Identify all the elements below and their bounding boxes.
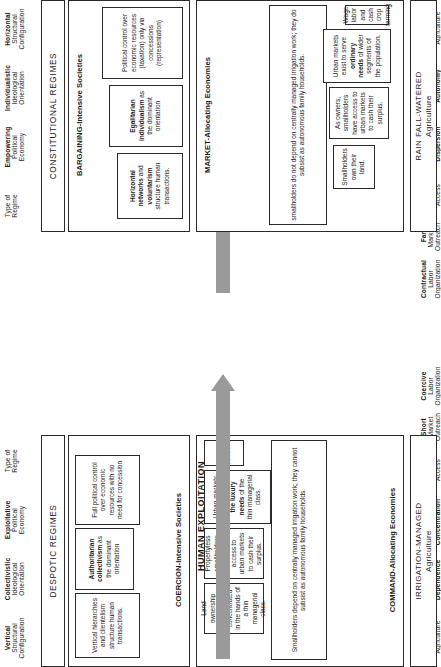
left-cell-2: Propertyless smallholders have no access… <box>204 528 264 579</box>
left-agriculture-bar: IRRIGATION-MANAGED Agriculture <box>410 435 437 667</box>
left-cell-3-text: Urban markets exist to serve the luxury … <box>212 474 263 520</box>
right-cell-3: Urban markets exist to serve ordinary ne… <box>323 29 391 83</box>
right-economy-title: MARKET-Allocating Economies <box>203 0 212 231</box>
left-society-group: COERCION-Intensive Societies Full politi… <box>68 435 190 667</box>
rail-left-5: Coercive Labor Organization <box>407 364 441 408</box>
left-cell-7: Full political control over economic res… <box>75 455 140 525</box>
left-regime-header-label: DESPOTIC REGIMES <box>49 504 58 597</box>
left-column-despotic: Type of Surplus Agriculture Subsistence … <box>0 367 441 667</box>
right-cell-5-emphasis-b: voluntarism <box>146 168 153 205</box>
rail-left-8: Exploitative Political Economy <box>4 491 38 549</box>
diagram-rotation-host: Type of Surplus Agriculture Subsistence … <box>0 0 441 667</box>
rail-right-5: Contractual Labor Organization <box>407 258 441 300</box>
right-cell-2: As owners, smallholders have access to u… <box>329 87 389 139</box>
left-cell-2-text: Propertyless smallholders have no access… <box>204 532 263 575</box>
rail-line2: Structural <box>11 14 18 44</box>
right-cell-4: Wage labor and cash crop farming <box>345 5 389 25</box>
right-cell-0: smallholders do not depend on centrally … <box>269 5 327 225</box>
right-column-constitutional: Type of Surplus Agriculture Subsistence … <box>0 0 441 300</box>
right-regime-header-label: CONSTITUTIONAL REGIMES <box>49 53 58 179</box>
left-cell-5: Vertical hierarchies and clientelism str… <box>75 593 140 658</box>
rail-line1: Short <box>420 418 427 436</box>
right-cell-3-pre: Urban markets exist to serve <box>332 35 347 78</box>
rail-line1: Horizontal <box>4 12 11 46</box>
right-agriculture-line2: Agriculture <box>424 95 434 137</box>
left-regime-header: DESPOTIC REGIMES <box>41 435 65 667</box>
rail-line1: Coercive <box>420 372 427 401</box>
rail-line2: Political <box>11 135 18 159</box>
left-society-title: COERCION-Intensive Societies <box>174 434 183 666</box>
right-cell-5: Horizontal networks and voluntarism stru… <box>117 153 183 219</box>
right-cell-4-text: Wage labor and cash crop farming <box>342 4 393 26</box>
right-cell-0-text: smallholders do not depend on centrally … <box>290 9 307 221</box>
rail-line1: Far <box>420 232 427 243</box>
left-cell-6-emphasis: Authoritarian collectivism <box>88 539 103 582</box>
right-cell-1-text: Smallholders own their land. <box>341 148 366 186</box>
left-cell-7-text: Full political control over economic res… <box>91 459 125 521</box>
rail-right-7: Individualistic Ideological Orientation <box>4 59 38 117</box>
left-economy-title: COMMAND-Allocating Economies <box>388 434 397 666</box>
comparison-diagram: Type of Surplus Agriculture Subsistence … <box>0 0 441 667</box>
right-cell-5-mid: and <box>137 165 144 178</box>
left-economy-group: COMMAND-Allocating Economies Slavery, se… <box>196 435 404 667</box>
right-cell-6-text: Egalitarian individualism as the dominan… <box>129 89 163 143</box>
left-cell-1-text: Land ownership remains concentrated in t… <box>200 587 268 630</box>
right-society-title: BARGAINING-Intensive Societies <box>75 0 84 231</box>
rail-line3: Configuration <box>18 618 25 659</box>
rail-line1: Type of <box>4 450 11 473</box>
rail-right-6: Horizontal Structural Configuration <box>4 0 38 58</box>
right-cell-7: Political control over economic resource… <box>102 7 183 79</box>
right-cell-1: Smallholders own their land. <box>333 145 375 189</box>
left-cell-0-text: Smallholders depend on centrally managed… <box>291 444 308 656</box>
rail-line1: Individualistic <box>4 65 11 111</box>
rail-line3: Economy <box>18 506 25 534</box>
left-agriculture-line1: IRRIGATION-MANAGED <box>414 502 424 599</box>
rail-line2: Regime <box>11 449 18 473</box>
right-agriculture-line1: RAIN FALL-WATERED <box>414 71 424 160</box>
right-cell-3-text: Urban markets exist to serve ordinary ne… <box>332 33 383 79</box>
rail-line1: Type of <box>4 195 11 218</box>
left-cell-3-pre: Urban markets exist to serve <box>212 476 227 519</box>
rail-line2: Labor <box>427 270 434 288</box>
rail-line3: Configuration <box>18 9 25 50</box>
left-cell-4: Slavery, serfdom <box>204 440 244 466</box>
right-society-group: BARGAINING-Intensive Societies Horizonta… <box>68 0 190 232</box>
right-cell-7-text: Political control over economic resource… <box>121 11 163 75</box>
rail-line1: Vertical <box>4 626 11 651</box>
rail-line2: Regime <box>11 194 18 218</box>
right-regime-header: CONSTITUTIONAL REGIMES <box>41 0 65 232</box>
rail-line2: Structural <box>11 623 18 653</box>
left-cell-6-text: Authoritarian collectivism as the domina… <box>88 532 122 586</box>
rail-line1: Contractual <box>420 260 427 298</box>
right-cell-5-text: Horizontal networks and voluntarism stru… <box>129 157 171 215</box>
left-cell-1: Land ownership remains concentrated in t… <box>204 583 264 634</box>
rail-right-9: Type of Regime <box>4 180 38 232</box>
rail-line2: Ideological <box>11 72 18 105</box>
rail-left-9: Type of Regime <box>4 435 38 487</box>
left-cell-3: Urban markets exist to serve the luxury … <box>204 470 271 524</box>
rail-line2: Labor <box>427 377 434 395</box>
right-cell-6-emphasis: Egalitarian individualism <box>129 99 144 141</box>
rail-line2: Ideological <box>11 563 18 596</box>
rail-right-8: Empowering Political Economy <box>4 118 38 176</box>
rail-left-6: Vertical Structural Configuration <box>4 609 38 667</box>
rail-line1: Empowering <box>4 127 11 168</box>
rail-line3: Orientation <box>18 562 25 596</box>
rail-line3: Orientation <box>18 71 25 105</box>
center-arrows <box>0 300 441 367</box>
right-agriculture-bar: RAIN FALL-WATERED Agriculture <box>410 0 437 232</box>
left-cell-4-text: Slavery, serfdom <box>216 441 233 464</box>
rail-left-7: Collectivistic Ideological Orientation <box>4 550 38 608</box>
rail-line3: Economy <box>18 133 25 161</box>
rail-line1: Collectivistic <box>4 558 11 601</box>
left-agriculture-line2: Agriculture <box>424 530 434 572</box>
right-cell-2-text: As owners, smallholders have access to u… <box>334 91 385 135</box>
right-cell-5-post: structure human transactions. <box>154 163 169 210</box>
rail-line3: Organization <box>434 260 441 299</box>
left-cell-0: Smallholders depend on centrally managed… <box>271 440 327 660</box>
right-economy-group: MARKET-Allocating Economies smallholders… <box>196 0 404 232</box>
left-cell-6: Authoritarian collectivism as the domina… <box>75 528 134 590</box>
rail-line1: Exploitative <box>4 501 11 540</box>
rail-line2: Political <box>11 508 18 532</box>
rail-line3: Organization <box>434 367 441 406</box>
